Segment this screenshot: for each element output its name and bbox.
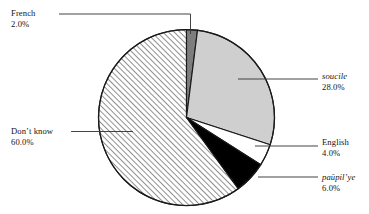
slice-label-dont-know: Don’t know 60.0% [11, 126, 53, 148]
slice-label-french-value: 2.0% [11, 19, 35, 30]
slice-label-english: English 4.0% [322, 137, 349, 159]
slice-label-english-value: 4.0% [322, 148, 349, 159]
slice-label-english-category: English [322, 137, 349, 148]
pie-chart-figure: French 2.0% Don’t know 60.0% soucile 28.… [0, 0, 369, 214]
slice-label-french: French 2.0% [11, 8, 35, 30]
slice-label-paupilye-category: paŭpil’ye [322, 172, 355, 183]
slice-label-dont-know-category: Don’t know [11, 126, 53, 137]
slice-label-soucile-category: soucile [322, 71, 347, 82]
slice-label-dont-know-value: 60.0% [11, 137, 53, 148]
slice-label-french-category: French [11, 8, 35, 19]
slice-label-paupilye-value: 6.0% [322, 183, 355, 194]
slice-label-soucile: soucile 28.0% [322, 71, 347, 93]
slice-label-soucile-value: 28.0% [322, 82, 347, 93]
pie-chart-canvas [0, 0, 369, 214]
slice-label-paupilye: paŭpil’ye 6.0% [322, 172, 355, 194]
